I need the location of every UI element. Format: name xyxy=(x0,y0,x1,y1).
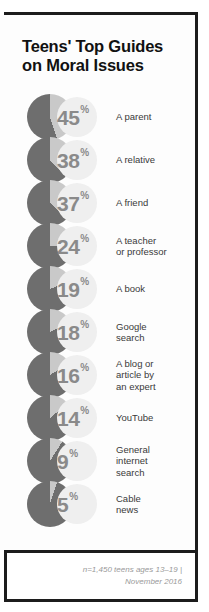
right-rule xyxy=(195,12,198,602)
category-label-line: A parent xyxy=(116,111,151,123)
footer-date: November 2016 xyxy=(125,576,182,588)
percent-number: 9 xyxy=(57,451,68,472)
percent-value: 5% xyxy=(57,484,105,524)
category-label-line: search xyxy=(116,332,147,344)
percent-value: 16% xyxy=(57,355,105,395)
percent-sign: % xyxy=(80,148,89,158)
percent-value: 19% xyxy=(57,269,105,309)
category-label-line: an expert xyxy=(116,381,156,393)
category-label-line: Google xyxy=(116,321,147,333)
category-label-line: A book xyxy=(116,283,145,295)
category-label-line: A blog or xyxy=(116,358,156,370)
percent-value: 14% xyxy=(57,398,105,438)
percent-sign: % xyxy=(80,105,89,115)
percent-value: 24% xyxy=(57,226,105,266)
percent-sign: % xyxy=(69,449,78,459)
page-title-line-1: Teens' Top Guides xyxy=(22,37,187,56)
percent-number: 45 xyxy=(57,107,79,128)
page-title-line-2: on Moral Issues xyxy=(22,56,187,75)
category-label-line: Cable xyxy=(116,493,141,505)
pie-row: 14%YouTube xyxy=(0,393,195,436)
pie-row: 38%A relative xyxy=(0,135,195,178)
pie-row: 18%Googlesearch xyxy=(0,307,195,350)
percent-sign: % xyxy=(80,191,89,201)
percent-value: 45% xyxy=(57,97,105,137)
category-label-line: search xyxy=(116,467,150,479)
pie-row: 19%A book xyxy=(0,264,195,307)
pie-row-list: 45%A parent38%A relative37%A friend24%A … xyxy=(0,92,195,522)
percent-number: 37 xyxy=(57,193,79,214)
percent-value: 18% xyxy=(57,312,105,352)
percent-value: 38% xyxy=(57,140,105,180)
bottom-rule xyxy=(4,599,198,602)
percent-sign: % xyxy=(80,320,89,330)
category-label-line: YouTube xyxy=(116,412,153,424)
category-label-line: A teacher xyxy=(116,235,167,247)
percent-sign: % xyxy=(80,234,89,244)
percent-number: 24 xyxy=(57,236,79,257)
percent-value: 37% xyxy=(57,183,105,223)
percent-sign: % xyxy=(80,406,89,416)
pie-row: 16%A blog orarticle byan expert xyxy=(0,350,195,393)
percent-number: 16 xyxy=(57,365,79,386)
footer-note: n=1,450 teens ages 13–19 | November 2016 xyxy=(4,553,190,599)
pie-row: 5%Cablenews xyxy=(0,479,195,522)
pie-row: 24%A teacheror professor xyxy=(0,221,195,264)
percent-number: 14 xyxy=(57,408,79,429)
footer-sample-size: n=1,450 teens ages 13–19 | xyxy=(83,564,182,576)
infographic-card: Teens' Top Guides on Moral Issues 45%A p… xyxy=(0,15,195,550)
category-label-line: General xyxy=(116,444,150,456)
pie-row: 9%Generalinternetsearch xyxy=(0,436,195,479)
pie-row: 37%A friend xyxy=(0,178,195,221)
percent-sign: % xyxy=(80,277,89,287)
percent-number: 5 xyxy=(57,494,68,515)
percent-number: 38 xyxy=(57,150,79,171)
percent-value: 9% xyxy=(57,441,105,481)
percent-number: 19 xyxy=(57,279,79,300)
pie-row: 45%A parent xyxy=(0,92,195,135)
category-label-line: internet xyxy=(116,455,150,467)
percent-number: 18 xyxy=(57,322,79,343)
category-label-line: or professor xyxy=(116,246,167,258)
percent-sign: % xyxy=(69,492,78,502)
page-title: Teens' Top Guides on Moral Issues xyxy=(22,37,187,75)
percent-sign: % xyxy=(80,363,89,373)
category-label-line: A relative xyxy=(116,154,155,166)
category-label-line: news xyxy=(116,504,141,516)
category-label: Cablenews xyxy=(116,479,194,529)
category-label-line: article by xyxy=(116,369,156,381)
category-label-line: A friend xyxy=(116,197,148,209)
